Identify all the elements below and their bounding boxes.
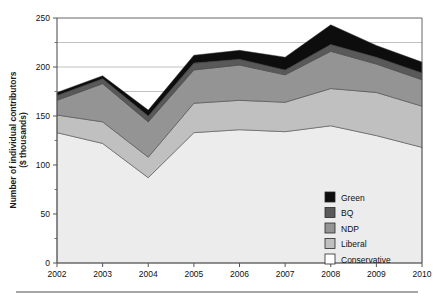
legend-swatch-conservative	[325, 254, 335, 264]
x-tick-label: 2007	[276, 269, 295, 279]
x-tick-label: 2009	[367, 269, 386, 279]
y-tick-label: 200	[36, 62, 50, 72]
legend-label-bq: BQ	[341, 208, 354, 218]
y-tick-label: 150	[36, 111, 50, 121]
legend-swatch-liberal	[325, 239, 335, 249]
x-tick-label: 2010	[413, 269, 432, 279]
legend-swatch-ndp	[325, 223, 335, 233]
y-axis-title-line1: Number of individual contributors	[8, 71, 18, 208]
x-tick-label: 2003	[93, 269, 112, 279]
x-tick-label: 2002	[48, 269, 67, 279]
y-axis-title: Number of individual contributors($ thou…	[8, 71, 28, 208]
legend-swatch-bq	[325, 208, 335, 218]
x-tick-label: 2008	[321, 269, 340, 279]
stacked-area-chart: 0501001502002502002200320042005200620072…	[0, 0, 434, 304]
y-tick-label: 250	[36, 13, 50, 23]
x-tick-label: 2006	[230, 269, 249, 279]
legend-label-ndp: NDP	[341, 224, 359, 234]
y-tick-label: 50	[41, 209, 51, 219]
y-axis-title-line2: ($ thousands)	[18, 112, 28, 168]
chart-figure: 0501001502002502002200320042005200620072…	[0, 0, 434, 304]
x-tick-label: 2005	[184, 269, 203, 279]
y-tick-label: 0	[45, 258, 50, 268]
legend-label-conservative: Conservative	[341, 255, 391, 265]
legend-label-green: Green	[341, 193, 365, 203]
legend-label-liberal: Liberal	[341, 239, 367, 249]
legend-swatch-green	[325, 192, 335, 202]
y-tick-label: 100	[36, 160, 50, 170]
x-tick-label: 2004	[139, 269, 158, 279]
